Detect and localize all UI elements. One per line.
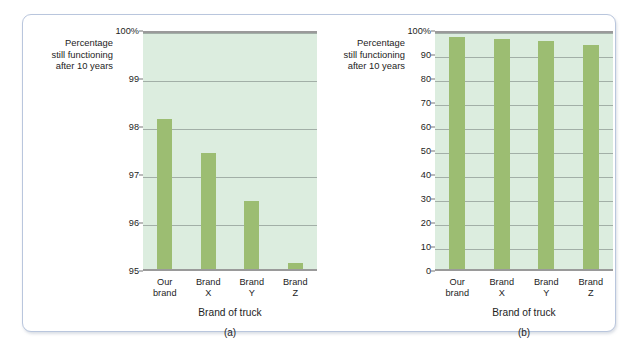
x-tick-label: BrandX bbox=[480, 277, 525, 300]
y-tick-label: 99 bbox=[129, 74, 139, 84]
chart-panel-b: Percentagestill functioningafter 10 year… bbox=[323, 15, 615, 333]
x-tick-label-line: Z bbox=[274, 288, 318, 299]
plot-area-b bbox=[435, 31, 613, 271]
x-tick-label-line: Brand bbox=[274, 277, 318, 288]
chart-panel-a: Percentagestill functioningafter 10 year… bbox=[29, 15, 325, 333]
bar bbox=[201, 153, 216, 269]
x-tick-label-line: Brand bbox=[187, 277, 231, 288]
x-tick-label-line: Brand bbox=[524, 277, 569, 288]
y-tick-label: 96 bbox=[129, 218, 139, 228]
x-tick-label-line: brand bbox=[143, 288, 187, 299]
bar bbox=[244, 201, 259, 269]
gridline bbox=[143, 33, 317, 34]
y-tick-label: 40 bbox=[421, 170, 431, 180]
y-tick-label: 60 bbox=[421, 122, 431, 132]
gridline bbox=[143, 81, 317, 82]
x-tick-label-line: Y bbox=[524, 288, 569, 299]
plot-area-a bbox=[143, 31, 317, 271]
y-tick-mark bbox=[431, 223, 435, 224]
x-tick-label: BrandX bbox=[187, 277, 231, 300]
y-tick-label: 20 bbox=[421, 218, 431, 228]
bar bbox=[583, 45, 599, 269]
x-tick-label-line: Brand bbox=[230, 277, 274, 288]
bar bbox=[288, 263, 303, 269]
y-tick-mark bbox=[431, 199, 435, 200]
x-tick-label: BrandZ bbox=[569, 277, 614, 300]
x-tick-label-line: Our bbox=[435, 277, 480, 288]
y-tick-label: 98 bbox=[129, 122, 139, 132]
bar bbox=[494, 39, 510, 269]
y-axis-title-line: still functioning bbox=[323, 49, 405, 61]
y-axis-title-line: Percentage bbox=[323, 37, 405, 49]
y-tick-mark bbox=[431, 31, 435, 32]
x-tick-label-line: X bbox=[480, 288, 525, 299]
x-tick-label-line: Brand bbox=[569, 277, 614, 288]
x-tick-label: Ourbrand bbox=[435, 277, 480, 300]
x-tick-label-line: Z bbox=[569, 288, 614, 299]
y-tick-label: 10 bbox=[421, 242, 431, 252]
x-tick-label: Ourbrand bbox=[143, 277, 187, 300]
y-tick-label: 95 bbox=[129, 266, 139, 276]
panel-caption-a: (a) bbox=[143, 327, 317, 338]
y-axis-title-a: Percentagestill functioningafter 10 year… bbox=[31, 37, 113, 72]
y-axis-title-line: still functioning bbox=[31, 49, 113, 61]
y-tick-label: 97 bbox=[129, 170, 139, 180]
y-axis-title-line: after 10 years bbox=[323, 60, 405, 72]
x-tick-label-line: Brand bbox=[480, 277, 525, 288]
figure-frame: Percentagestill functioningafter 10 year… bbox=[22, 14, 616, 332]
x-tick-label: BrandY bbox=[524, 277, 569, 300]
x-tick-label-line: Y bbox=[230, 288, 274, 299]
y-tick-label: 50 bbox=[421, 146, 431, 156]
y-tick-label: 80 bbox=[421, 74, 431, 84]
y-tick-mark bbox=[139, 31, 143, 32]
panel-caption-b: (b) bbox=[435, 327, 613, 338]
y-tick-mark bbox=[431, 175, 435, 176]
y-axis-title-b: Percentagestill functioningafter 10 year… bbox=[323, 37, 405, 72]
y-tick-mark bbox=[139, 271, 143, 272]
gridline bbox=[435, 33, 613, 34]
x-tick-label: BrandY bbox=[230, 277, 274, 300]
x-tick-label-line: Our bbox=[143, 277, 187, 288]
bar bbox=[157, 119, 172, 269]
y-tick-label: 90 bbox=[421, 50, 431, 60]
y-tick-mark bbox=[431, 103, 435, 104]
y-tick-label: 100% bbox=[408, 26, 432, 36]
y-tick-mark bbox=[139, 79, 143, 80]
x-axis-title-a: Brand of truck bbox=[143, 307, 317, 318]
x-tick-label-line: X bbox=[187, 288, 231, 299]
bar bbox=[538, 41, 554, 269]
y-tick-mark bbox=[431, 55, 435, 56]
y-tick-mark bbox=[139, 223, 143, 224]
bar bbox=[449, 37, 465, 269]
y-axis-title-line: after 10 years bbox=[31, 60, 113, 72]
y-tick-mark bbox=[431, 79, 435, 80]
y-tick-mark bbox=[139, 175, 143, 176]
x-axis-title-b: Brand of truck bbox=[435, 307, 613, 318]
y-tick-mark bbox=[139, 127, 143, 128]
x-tick-label-line: brand bbox=[435, 288, 480, 299]
y-tick-mark bbox=[431, 271, 435, 272]
y-tick-label: 30 bbox=[421, 194, 431, 204]
x-tick-label: BrandZ bbox=[274, 277, 318, 300]
y-tick-mark bbox=[431, 151, 435, 152]
y-tick-mark bbox=[431, 247, 435, 248]
y-tick-label: 70 bbox=[421, 98, 431, 108]
y-tick-label: 100% bbox=[116, 26, 140, 36]
y-axis-title-line: Percentage bbox=[31, 37, 113, 49]
y-tick-mark bbox=[431, 127, 435, 128]
